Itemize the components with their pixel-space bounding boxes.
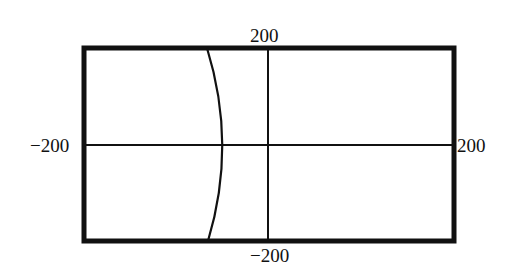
x-max-label: 200: [457, 136, 486, 155]
y-min-label: −200: [250, 246, 289, 265]
y-max-label: 200: [250, 26, 279, 45]
x-min-label: −200: [30, 136, 69, 155]
